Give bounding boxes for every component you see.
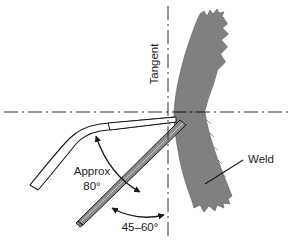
work-angle-label: 45–60° bbox=[122, 221, 159, 233]
diagram-canvas: Tangent Approx 80° 45–60° Weld bbox=[0, 0, 296, 242]
approx-label: Approx bbox=[74, 165, 111, 177]
approx-angle-label: 80° bbox=[83, 180, 100, 192]
tangent-label: Tangent bbox=[148, 43, 160, 85]
welding-angle-diagram: Tangent Approx 80° 45–60° Weld bbox=[0, 0, 296, 242]
weld-label: Weld bbox=[248, 153, 274, 165]
